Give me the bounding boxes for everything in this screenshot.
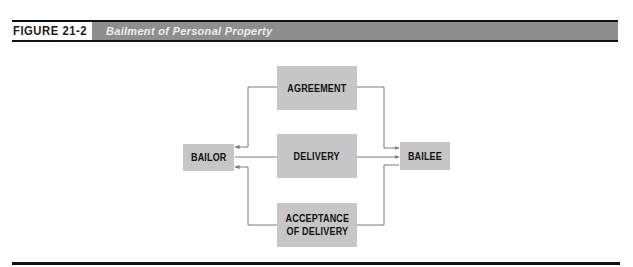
node-acceptance-of-delivery: ACCEPTANCE OF DELIVERY [277,203,357,247]
node-bailee-label: BAILEE [408,150,442,163]
connector-agreement-to-bailee [357,87,399,148]
node-bailor: BAILOR [183,144,234,171]
node-acceptance-line2: OF DELIVERY [285,225,349,238]
node-agreement: AGREEMENT [277,66,357,110]
connector-agreement-to-bailor [235,87,277,147]
node-bailee: BAILEE [400,142,450,170]
node-delivery-label: DELIVERY [294,150,340,163]
connector-acceptance-to-bailee [357,165,399,225]
node-delivery: DELIVERY [277,134,357,178]
node-acceptance-label: ACCEPTANCE OF DELIVERY [285,212,349,238]
footer-rule [12,262,620,265]
node-bailor-label: BAILOR [191,151,227,164]
node-acceptance-line1: ACCEPTANCE [285,212,349,225]
connector-acceptance-to-bailor [235,167,277,225]
node-agreement-label: AGREEMENT [287,82,346,95]
